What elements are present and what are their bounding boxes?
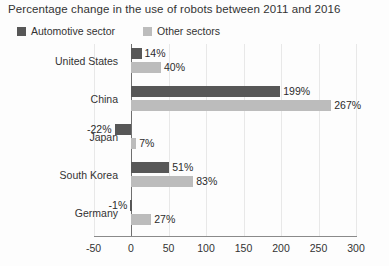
bar-value-label: 7%	[139, 138, 154, 149]
bar-other	[131, 62, 161, 73]
legend-entry-automotive: Automotive sector	[17, 25, 115, 37]
chart-title: Percentage change in the use of robots b…	[8, 3, 341, 15]
bar-automotive	[131, 162, 169, 173]
chart-row: Japan-22%7%	[0, 120, 389, 158]
legend-swatch-other	[143, 27, 152, 36]
x-tick-label: -50	[86, 242, 101, 254]
legend-label-other: Other sectors	[157, 25, 220, 37]
chart-row: Germany-1%27%	[0, 196, 389, 234]
bar-value-label: 267%	[334, 100, 361, 111]
bar-value-label: 40%	[164, 62, 185, 73]
category-label: China	[91, 93, 118, 105]
chart-legend: Automotive sector Other sectors	[17, 25, 220, 37]
x-tick-label: 200	[272, 242, 290, 254]
legend-label-automotive: Automotive sector	[31, 25, 115, 37]
legend-entry-other: Other sectors	[143, 25, 220, 37]
x-tick-label: 100	[197, 242, 215, 254]
bar-automotive	[131, 86, 280, 97]
bar-automotive	[131, 48, 142, 59]
bar-other	[131, 214, 151, 225]
bar-other	[131, 176, 193, 187]
category-label: United States	[55, 55, 118, 67]
plot-area: United States14%40%China199%267%Japan-22…	[0, 44, 389, 236]
bar-automotive	[115, 124, 132, 135]
x-tick-label: 0	[128, 242, 134, 254]
x-tick-label: 300	[347, 242, 365, 254]
chart-row: China199%267%	[0, 82, 389, 120]
x-tick-label: 250	[310, 242, 328, 254]
bar-value-label: 83%	[196, 176, 217, 187]
x-axis-line	[94, 236, 357, 237]
x-tick-label: 150	[235, 242, 253, 254]
x-tick-label: 50	[163, 242, 175, 254]
bar-value-label: -22%	[87, 124, 112, 135]
chart-row: United States14%40%	[0, 44, 389, 82]
bar-automotive	[130, 200, 132, 211]
bar-value-label: 14%	[145, 48, 166, 59]
legend-swatch-automotive	[17, 27, 26, 36]
bar-value-label: -1%	[109, 200, 128, 211]
bar-value-label: 27%	[154, 214, 175, 225]
bar-value-label: 51%	[172, 162, 193, 173]
category-label: South Korea	[60, 169, 118, 181]
chart-row: South Korea51%83%	[0, 158, 389, 196]
bar-chart: Percentage change in the use of robots b…	[0, 0, 389, 266]
bar-value-label: 199%	[283, 86, 310, 97]
bar-other	[131, 138, 136, 149]
bar-other	[131, 100, 331, 111]
